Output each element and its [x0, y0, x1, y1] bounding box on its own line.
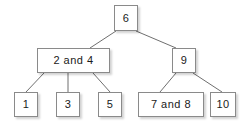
- tree-node-leaf5: 5: [98, 92, 122, 117]
- tree-edge-root-left: [90, 31, 116, 48]
- tree-diagram: 62 and 491357 and 810: [0, 0, 251, 124]
- tree-node-label: 3: [65, 99, 72, 110]
- tree-node-label: 7 and 8: [151, 99, 191, 110]
- tree-edge-left-leaf1: [26, 73, 44, 92]
- tree-node-right: 9: [172, 48, 196, 73]
- tree-edge-right-leaf10: [193, 73, 222, 92]
- tree-edge-left-leaf5: [93, 73, 110, 92]
- tree-node-label: 5: [107, 99, 114, 110]
- tree-node-leaf3: 3: [56, 92, 80, 117]
- tree-node-leaf78: 7 and 8: [138, 92, 204, 117]
- tree-node-root: 6: [114, 5, 138, 31]
- tree-node-leaf1: 1: [14, 92, 38, 117]
- tree-node-label: 10: [216, 99, 229, 110]
- tree-edge-right-leaf78: [160, 73, 176, 92]
- tree-node-label: 6: [123, 13, 130, 24]
- tree-node-label: 1: [23, 99, 30, 110]
- tree-edge-root-right: [136, 31, 176, 48]
- tree-node-label: 9: [181, 55, 188, 66]
- tree-node-left: 2 and 4: [37, 48, 110, 73]
- tree-node-leaf10: 10: [210, 92, 236, 117]
- tree-node-label: 2 and 4: [53, 55, 93, 66]
